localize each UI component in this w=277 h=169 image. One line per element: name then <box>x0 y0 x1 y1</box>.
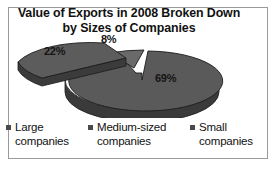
legend-label-small-companies-line-1: Small <box>199 120 253 134</box>
legend-swatch-icon-large-companies <box>6 125 11 130</box>
legend-swatch-icon-small-companies <box>190 125 195 130</box>
pie-label-medium-sized-companies: 8% <box>101 33 116 45</box>
legend-label-medium-sized-companies-line-1: Medium-sized <box>97 120 166 134</box>
pie-chart-graphic <box>0 32 258 118</box>
chart-legend: Large companies Medium-sized companies S… <box>0 120 258 152</box>
legend-label-small-companies-line-2: companies <box>199 134 253 148</box>
legend-label-large-companies-line-2: companies <box>15 134 69 148</box>
chart-title-line-1: Value of Exports in 2008 Broken Down <box>10 6 248 21</box>
legend-label-medium-sized-companies: Medium-sized companies <box>97 120 166 148</box>
pie-label-small-companies: 69% <box>155 72 176 84</box>
legend-item-large-companies[interactable]: Large companies <box>6 120 80 148</box>
legend-swatch-icon-medium-sized-companies <box>88 125 93 130</box>
legend-item-small-companies[interactable]: Small companies <box>190 120 256 148</box>
legend-label-large-companies: Large companies <box>15 120 69 148</box>
pie-label-large-companies: 22% <box>44 45 65 57</box>
chart-figure: Value of Exports in 2008 Broken Down by … <box>0 0 277 169</box>
legend-label-small-companies: Small companies <box>199 120 253 148</box>
legend-item-medium-sized-companies[interactable]: Medium-sized companies <box>88 120 180 148</box>
legend-label-medium-sized-companies-line-2: companies <box>97 134 166 148</box>
legend-label-large-companies-line-1: Large <box>15 120 69 134</box>
pie-chart-plot-area: 22% 8% 69% <box>0 32 258 118</box>
